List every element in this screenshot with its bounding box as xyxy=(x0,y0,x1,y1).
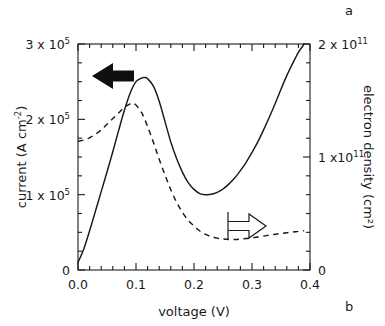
y-axis-left-ticks xyxy=(78,44,85,270)
y-axis-right-tick-labels: 01 x10112 x 1011 xyxy=(318,36,368,278)
y-axis-left-tick-labels: 01 x 1052 x 1053 x 105 xyxy=(25,36,70,278)
y-right-tick-label: 2 x 1011 xyxy=(318,36,368,52)
y-axis-right-title: electron density (cm²) xyxy=(361,85,376,229)
y-axis-left-title: current (A cm-2) xyxy=(13,106,29,209)
y-left-tick-label: 0 xyxy=(62,263,70,278)
x-tick-label: 0.4 xyxy=(300,277,320,292)
x-axis-tick-labels: 0.00.10.20.30.4 xyxy=(68,277,320,292)
y-left-tick-label: 2 x 105 xyxy=(25,111,70,127)
x-axis-ticks xyxy=(78,263,310,270)
figure-container: a b 0.00.10.20.30.4 01 x 1052 x 1053 x 1… xyxy=(0,0,385,326)
y-left-tick-label: 3 x 105 xyxy=(25,36,70,52)
y-left-tick-label: 1 x 105 xyxy=(25,187,70,203)
x-axis-ticks-top xyxy=(78,44,310,51)
x-axis-title: voltage (V) xyxy=(158,304,230,319)
y-right-tick-label: 0 xyxy=(318,263,326,278)
x-tick-label: 0.3 xyxy=(242,277,262,292)
x-tick-label: 0.1 xyxy=(126,277,146,292)
x-tick-label: 0.2 xyxy=(184,277,204,292)
arrow-to-right-axis-icon xyxy=(228,212,266,240)
x-tick-label: 0.0 xyxy=(68,277,88,292)
y-right-tick-label: 1 x1011 xyxy=(318,149,364,165)
panel-label-b: b xyxy=(345,300,353,313)
arrow-to-left-axis-icon xyxy=(92,63,134,89)
panel-label-a: a xyxy=(345,4,353,17)
chart-plot: 0.00.10.20.30.4 01 x 1052 x 1053 x 105 0… xyxy=(0,0,385,326)
y-axis-right-ticks xyxy=(303,44,310,270)
series-line-electron-density xyxy=(78,103,304,239)
